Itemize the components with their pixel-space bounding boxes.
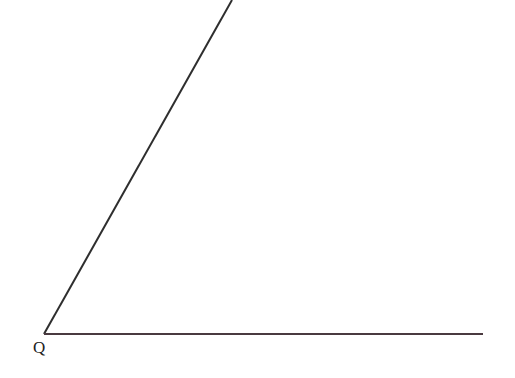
angle-figure	[0, 0, 515, 378]
upper-ray	[44, 0, 232, 334]
angle-diagram: Q	[0, 0, 515, 378]
vertex-label-q: Q	[33, 338, 45, 358]
